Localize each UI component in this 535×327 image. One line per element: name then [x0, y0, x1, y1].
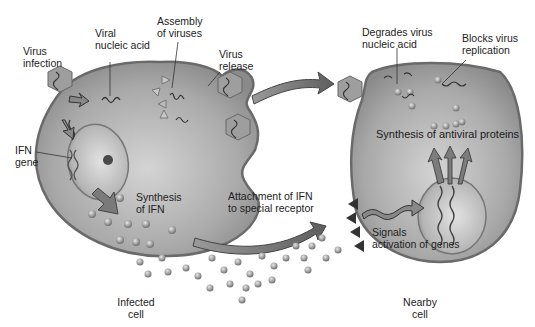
label-degrades-virus-nucleic-acid: Degrades virus nucleic acid	[362, 26, 433, 50]
ifn-diagram	[0, 0, 535, 327]
label-ifn-gene: IFN gene	[15, 144, 38, 168]
label-virus-infection: Virus infection	[23, 45, 62, 69]
caption-infected-cell: Infected cell	[108, 296, 164, 320]
label-attachment-of-ifn: Attachment of IFN to special receptor	[228, 190, 314, 214]
label-assembly-of-viruses: Assembly of viruses	[157, 15, 203, 39]
label-signals-activation-of-genes: Signals activation of genes	[372, 226, 460, 250]
virus-spread-arrow	[252, 72, 334, 104]
virus-icon	[48, 66, 72, 92]
label-viral-nucleic-acid: Viral nucleic acid	[95, 27, 150, 51]
virus-icon	[338, 76, 362, 102]
virus-icon	[226, 114, 250, 140]
label-blocks-virus-replication: Blocks virus replication	[462, 32, 518, 56]
virus-icon	[218, 72, 242, 98]
label-synthesis-of-ifn: Synthesis of IFN	[136, 191, 182, 215]
nucleolus	[103, 155, 113, 165]
caption-nearby-cell: Nearby cell	[392, 296, 448, 320]
label-virus-release: Virus release	[219, 48, 253, 72]
label-synthesis-of-antiviral-proteins: Synthesis of antiviral proteins	[376, 128, 519, 140]
